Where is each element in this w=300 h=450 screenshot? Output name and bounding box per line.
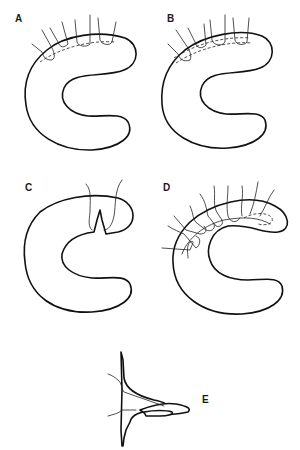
panel-b: B <box>150 0 300 150</box>
panel-label-b: B <box>167 13 174 24</box>
panel-label-d: D <box>163 182 170 193</box>
c-shape-diagram-a <box>0 0 150 150</box>
c-shape-diagram-d <box>150 150 300 310</box>
panel-d: D <box>150 150 300 310</box>
c-shape-diagram-c <box>0 150 150 310</box>
panel-a: A <box>0 0 150 150</box>
panel-label-e: E <box>202 394 209 405</box>
cross-section-diagram-e <box>80 330 230 450</box>
panel-label-c: C <box>25 182 32 193</box>
panel-c: C <box>0 150 150 310</box>
panel-label-a: A <box>15 13 22 24</box>
panel-e: E <box>80 330 230 450</box>
